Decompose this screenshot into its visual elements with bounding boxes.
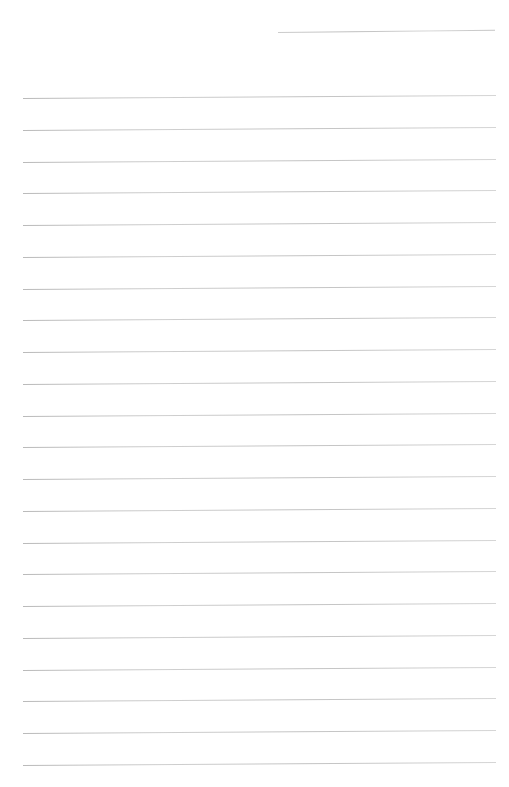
ruled-line xyxy=(23,381,496,385)
notebook-page xyxy=(0,0,509,787)
ruled-line xyxy=(23,603,496,607)
ruled-line xyxy=(23,413,496,417)
ruled-line xyxy=(23,190,496,194)
ruled-line xyxy=(23,222,496,226)
ruled-line xyxy=(23,95,496,99)
ruled-line xyxy=(23,127,496,131)
ruled-line xyxy=(23,349,496,353)
ruled-line xyxy=(23,571,496,575)
ruled-line xyxy=(23,254,496,258)
ruled-line xyxy=(23,476,496,480)
ruled-line xyxy=(23,444,496,448)
ruled-line xyxy=(23,667,496,671)
ruled-line xyxy=(23,317,496,321)
ruled-line xyxy=(23,762,496,766)
ruled-line xyxy=(23,635,496,639)
ruled-line xyxy=(23,159,496,163)
ruled-line xyxy=(23,508,496,512)
ruled-line xyxy=(23,540,496,544)
ruled-line xyxy=(23,698,496,702)
ruled-line xyxy=(23,286,496,290)
ruled-line xyxy=(23,730,496,734)
header-name-line xyxy=(278,30,495,33)
